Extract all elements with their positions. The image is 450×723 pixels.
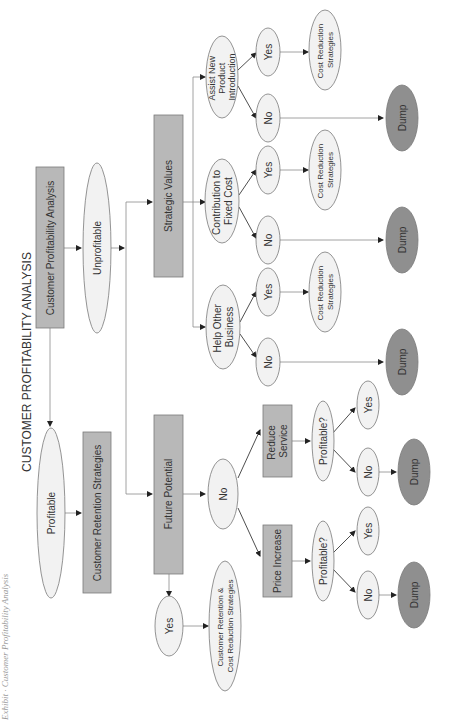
- node-rs-dump-label: Dump: [409, 458, 420, 485]
- node-assist-dump: Dump: [386, 85, 418, 151]
- node-pi-no: No: [357, 571, 379, 619]
- node-pi-dump: Dump: [398, 562, 430, 628]
- svg-text:Assist New Product: Assist New Product Introduction: [207, 53, 237, 100]
- node-contrib-yes: Yes: [256, 146, 280, 194]
- node-pi-no-label: No: [363, 588, 374, 601]
- node-fp-yes-label: Yes: [164, 618, 175, 634]
- node-contribution-line2: Fixed Cost: [223, 177, 234, 225]
- node-help-dump: Dump: [386, 329, 418, 395]
- node-contrib-dump: Dump: [386, 207, 418, 273]
- node-root-label: Customer Profitability Analysis: [45, 181, 56, 316]
- node-help-cost-reduction: Cost Reduction Strategies: [309, 252, 341, 332]
- node-pi-dump-label: Dump: [409, 581, 420, 608]
- node-contrib-cost-reduction-line2: Strategies: [326, 152, 335, 188]
- profitability-flowchart: Exhibit · Customer Profitability Analysi…: [0, 0, 450, 723]
- node-help-cost-reduction-line1: Cost Reduction: [316, 266, 325, 321]
- node-pi-profitable-label: Profitable?: [318, 537, 329, 585]
- node-rs-yes: Yes: [357, 381, 379, 429]
- node-contrib-no: No: [256, 216, 280, 264]
- node-fp-no-label: No: [218, 487, 229, 500]
- node-reduce-service: Reduce Service: [263, 405, 292, 477]
- node-assist-dump-label: Dump: [397, 104, 408, 131]
- node-customer-retention: Customer Retention Strategies: [83, 432, 111, 593]
- node-assist-cost-reduction: Cost Reduction Strategies: [309, 10, 341, 90]
- node-help-other-line1: Help Other: [212, 304, 223, 353]
- node-pi-yes-label: Yes: [363, 523, 374, 539]
- node-help-dump-label: Dump: [397, 348, 408, 375]
- node-assist: Assist New Product Introduction: [206, 36, 238, 118]
- node-unprofitable-label: Unprofitable: [92, 221, 103, 275]
- node-price-increase-label: Price Increase: [272, 529, 283, 593]
- node-assist-line3: Introduction: [227, 53, 237, 100]
- node-future-potential-label: Future Potential: [163, 459, 174, 530]
- node-root: Customer Profitability Analysis: [36, 167, 64, 328]
- node-profitable-label: Profitable: [46, 491, 57, 534]
- node-fp-yes: Yes: [155, 596, 183, 656]
- node-future-potential: Future Potential: [154, 415, 183, 574]
- node-rs-yes-label: Yes: [363, 397, 374, 413]
- node-assist-cost-reduction-line1: Cost Reduction: [316, 24, 325, 79]
- node-assist-yes-label: Yes: [263, 44, 274, 60]
- svg-text:Customer Retention & Cos: Customer Retention & Cost Reduction Stra…: [216, 580, 235, 673]
- node-fp-yes-result: Customer Retention & Cost Reduction Stra…: [209, 561, 241, 691]
- node-help-other-line2: Business: [224, 307, 235, 348]
- node-assist-yes: Yes: [256, 28, 280, 76]
- node-price-increase: Price Increase: [263, 525, 292, 597]
- node-help-no: No: [256, 338, 280, 386]
- diagram-title: CUSTOMER PROFITABILITY ANALYSIS: [20, 252, 34, 472]
- node-pi-profitable: Profitable?: [312, 521, 334, 601]
- node-help-other: Help Other Business: [206, 285, 240, 369]
- node-contrib-dump-label: Dump: [397, 226, 408, 253]
- node-contrib-cost-reduction: Cost Reduction Strategies: [309, 130, 341, 210]
- node-rs-profitable: Profitable?: [312, 401, 334, 481]
- node-strategic-values: Strategic Values: [154, 115, 183, 277]
- node-reduce-service-line1: Reduce: [266, 425, 277, 460]
- node-customer-retention-label: Customer Retention Strategies: [92, 445, 103, 582]
- node-assist-no-label: No: [263, 111, 274, 124]
- node-strategic-values-label: Strategic Values: [163, 160, 174, 232]
- node-rs-no-label: No: [363, 465, 374, 478]
- node-assist-cost-reduction-line2: Strategies: [326, 32, 335, 68]
- node-contribution: Contribution to Fixed Cost: [205, 159, 239, 243]
- node-assist-no: No: [256, 94, 280, 142]
- svg-text:Help Other Business: Help Other Business: [212, 301, 235, 352]
- node-help-yes-label: Yes: [263, 284, 274, 300]
- node-rs-profitable-label: Profitable?: [318, 417, 329, 465]
- node-rs-dump: Dump: [398, 439, 430, 505]
- node-profitable: Profitable: [37, 428, 65, 598]
- node-assist-line2: Product: [217, 62, 227, 94]
- side-caption: Exhibit · Customer Profitability Analysi…: [0, 573, 10, 721]
- node-reduce-service-line2: Service: [278, 424, 289, 458]
- node-assist-line1: Assist New: [207, 56, 217, 101]
- svg-text:Reduce Service: Reduce Service: [266, 422, 289, 459]
- node-help-cost-reduction-line2: Strategies: [326, 274, 335, 310]
- svg-text:Contribution to Fixed Co: Contribution to Fixed Cost: [211, 167, 234, 235]
- node-pi-yes: Yes: [357, 507, 379, 555]
- node-unprofitable: Unprofitable: [83, 163, 111, 333]
- node-contrib-no-label: No: [263, 233, 274, 246]
- node-rs-no: No: [357, 448, 379, 496]
- node-help-yes: Yes: [256, 268, 280, 316]
- node-fp-yes-result-line2: Cost Reduction Strategies: [226, 580, 235, 673]
- node-contrib-yes-label: Yes: [263, 162, 274, 178]
- node-contrib-cost-reduction-line1: Cost Reduction: [316, 144, 325, 199]
- node-fp-yes-result-line1: Customer Retention &: [216, 587, 225, 666]
- node-help-no-label: No: [263, 355, 274, 368]
- node-contribution-line1: Contribution to: [211, 169, 222, 234]
- node-fp-no: No: [208, 459, 238, 529]
